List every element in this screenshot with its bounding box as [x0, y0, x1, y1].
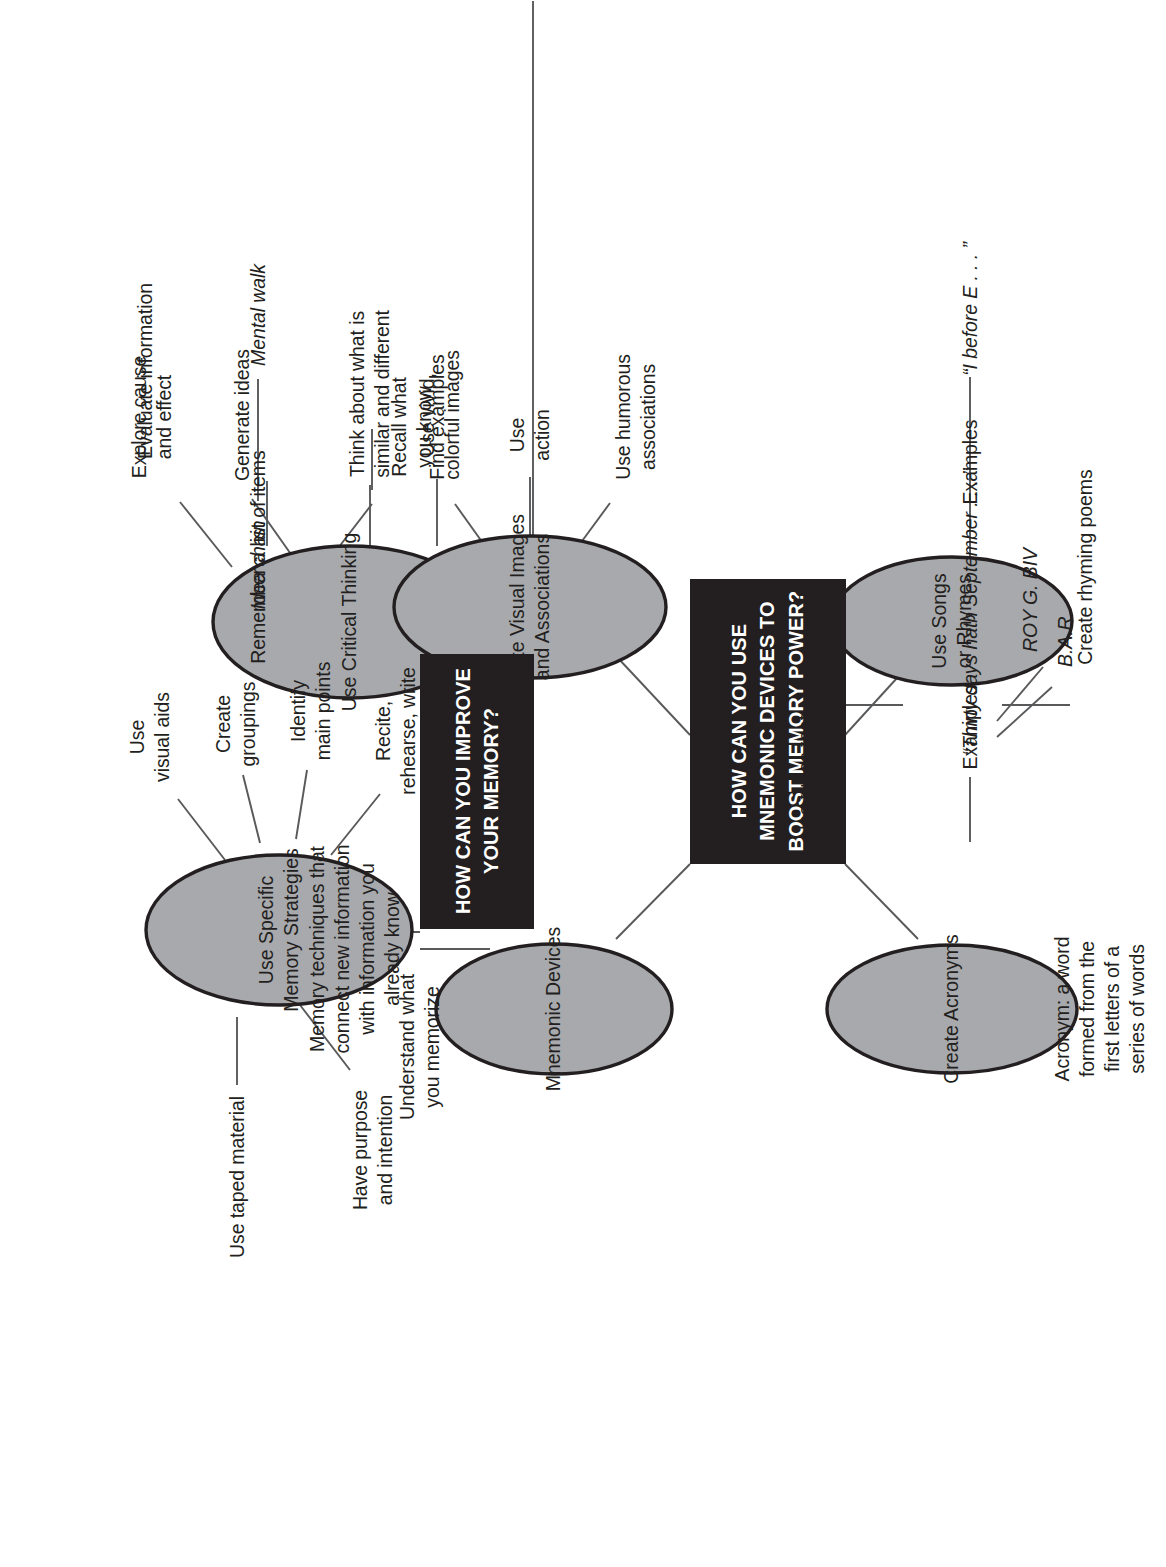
leaf-identify-main-points-label: Identify main points: [286, 662, 336, 761]
leaf-example-thirty-days: “Thirty days hath September . . . ”: [958, 469, 983, 756]
link-box-to-visual-images: [617, 657, 690, 735]
ellipse-shapes: [146, 536, 1077, 1074]
leaf-acronym-definition-label: Acronym: a word formed from the first le…: [1050, 937, 1150, 1082]
leaf-example-thirty-days-label: “Thirty days hath September . . . ”: [958, 469, 983, 756]
leaf-recite-rehearse-write: Recite, rehearse, write: [371, 667, 421, 794]
leaf-example-roygbiv-label: ROY G. BIV: [1018, 548, 1043, 652]
concept-map-page: HOW CAN YOU IMPROVE YOUR MEMORY? HOW CAN…: [0, 0, 1166, 1567]
leaf-mental-walk-label: Mental walk: [246, 264, 271, 366]
link-box-to-create-acronyms: [845, 864, 918, 939]
leaf-idea-chain-label: Idea chain: [246, 521, 271, 610]
spoke-use-visual-aids: [178, 799, 225, 860]
leaf-humorous-associations-label: Use humorous associations: [611, 354, 661, 480]
leaf-use-visual-aids-label: Use visual aids: [125, 692, 175, 782]
leaf-use-tunes-label: Use tunes that are familiar: [793, 715, 843, 839]
spoke-explore-cause-effect: [180, 502, 232, 567]
leaf-have-purpose-label: Have purpose and intention: [348, 1090, 398, 1210]
leaf-create-rhyming-poems-label: Create rhyming poems: [1073, 469, 1098, 664]
leaf-identify-main-points: Identify main points: [286, 662, 336, 761]
leaf-use-action-label: Use action: [505, 409, 555, 460]
leaf-create-rhyming-poems: Create rhyming poems: [1073, 469, 1098, 664]
ellipse-mnemonic-devices: [436, 944, 672, 1074]
leaf-create-groupings: Create groupings: [211, 682, 261, 767]
leaf-mnemonic-definition: Memory techniques that connect new infor…: [305, 844, 405, 1053]
leaf-vivid-colorful: Use vivid, colorful images: [415, 350, 465, 480]
leaf-recite-rehearse-write-label: Recite, rehearse, write: [371, 667, 421, 794]
leaf-example-i-before-e: “I before E . . . ”: [958, 242, 983, 376]
leaf-use-taped-material: Use taped material: [225, 1096, 250, 1258]
leaf-explore-cause-effect: Explore cause and effect: [127, 356, 177, 478]
leaf-idea-chain: Idea chain: [246, 521, 271, 610]
leaf-explore-cause-effect-label: Explore cause and effect: [127, 356, 177, 478]
leaf-acronym-definition: Acronym: a word formed from the first le…: [1050, 937, 1150, 1082]
leaf-use-visual-aids: Use visual aids: [125, 692, 175, 782]
leaf-use-taped-material-label: Use taped material: [225, 1096, 250, 1258]
ellipse-create-acronyms: [827, 945, 1077, 1073]
spoke-create-groupings: [243, 775, 260, 843]
leaf-use-action: Use action: [505, 409, 555, 460]
leaf-example-roygbiv: ROY G. BIV: [1018, 548, 1043, 652]
diagram-canvas: HOW CAN YOU IMPROVE YOUR MEMORY? HOW CAN…: [0, 0, 1166, 1567]
leaf-use-tunes: Use tunes that are familiar: [793, 715, 843, 839]
leaf-humorous-associations: Use humorous associations: [611, 354, 661, 480]
leaf-have-purpose: Have purpose and intention: [348, 1090, 398, 1210]
spoke-identify-main-points: [296, 770, 307, 839]
box-improve-memory: [420, 654, 534, 929]
link-box-to-mnemonic-devices: [616, 864, 690, 939]
connector-lines: [0, 0, 1166, 1567]
leaf-mnemonic-definition-label: Memory techniques that connect new infor…: [305, 844, 405, 1053]
leaf-example-i-before-e-label: “I before E . . . ”: [958, 242, 983, 376]
leaf-mental-walk: Mental walk: [246, 264, 271, 366]
leaf-create-groupings-label: Create groupings: [211, 682, 261, 767]
leaf-vivid-colorful-label: Use vivid, colorful images: [415, 350, 465, 480]
